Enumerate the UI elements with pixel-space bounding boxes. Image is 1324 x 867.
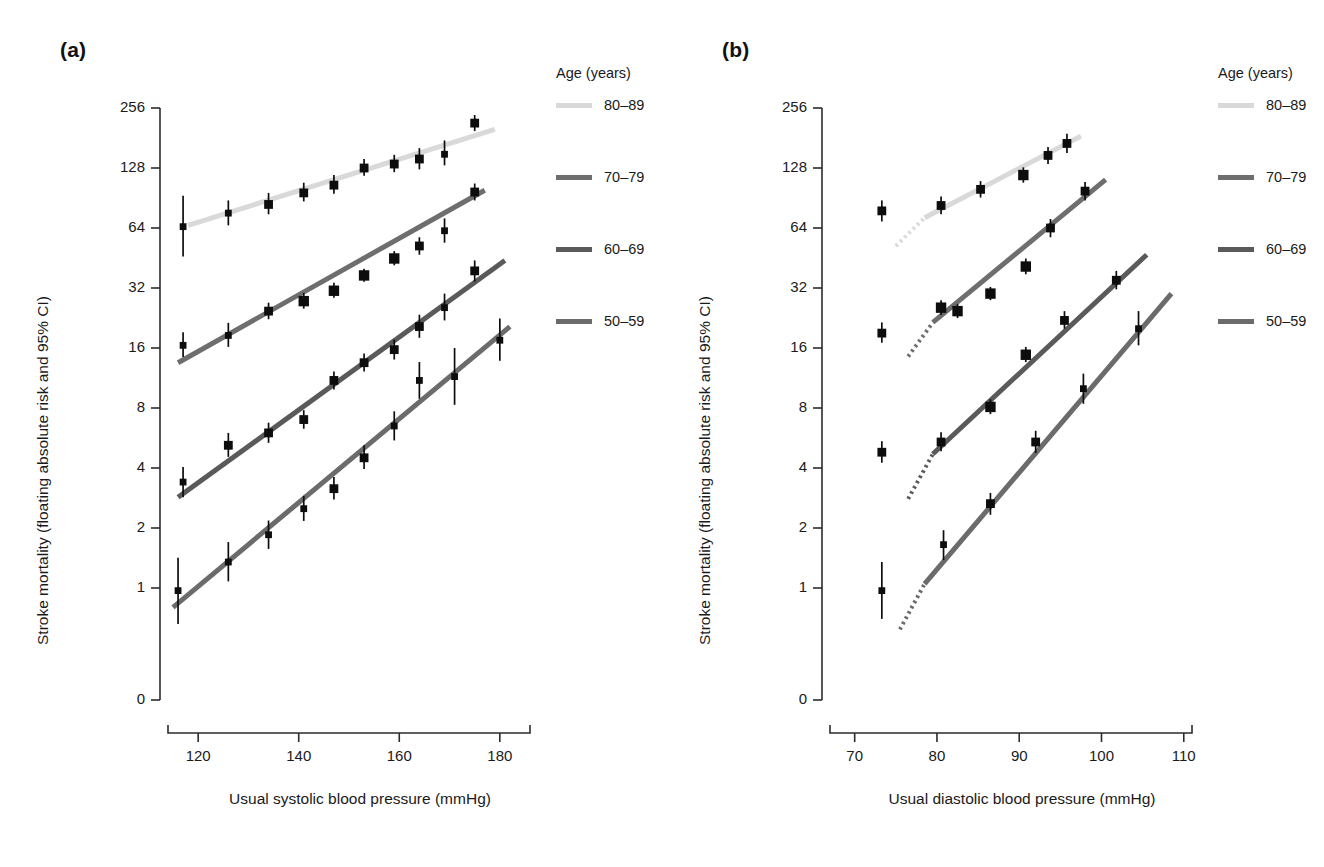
legend-swatch-icon xyxy=(1218,319,1254,324)
data-point-marker xyxy=(877,329,886,338)
legend-swatch-icon xyxy=(556,247,592,252)
data-point-marker xyxy=(299,189,308,198)
legend-label: 50–59 xyxy=(1266,311,1306,331)
data-point-marker xyxy=(470,188,479,197)
data-point-marker xyxy=(390,160,399,169)
data-point-marker xyxy=(976,185,985,194)
legend-swatch-icon xyxy=(1218,247,1254,252)
plot-canvas-b xyxy=(662,0,1324,867)
fit-line-dotted-extension xyxy=(908,322,933,356)
data-point-marker xyxy=(391,423,398,430)
data-point-marker xyxy=(1018,170,1028,180)
legend-label: 70–79 xyxy=(1266,167,1306,187)
figure-stroke-mortality-vs-blood-pressure: (a)Stroke mortality (floating absolute r… xyxy=(0,0,1324,867)
legend-swatch-icon xyxy=(556,175,592,180)
data-point-marker xyxy=(470,119,479,128)
data-point-marker xyxy=(225,332,232,339)
x-tick-label: 80 xyxy=(914,747,960,764)
data-point-marker xyxy=(360,358,369,367)
y-tick-label: 4 xyxy=(761,458,807,475)
panel-a: (a)Stroke mortality (floating absolute r… xyxy=(0,0,662,867)
legend-swatch-icon xyxy=(1218,175,1254,180)
y-tick-label: 1 xyxy=(761,578,807,595)
data-point-marker xyxy=(986,499,995,508)
x-tick-label: 90 xyxy=(996,747,1042,764)
data-point-marker xyxy=(415,155,424,164)
fit-line-dotted-extension xyxy=(908,454,933,499)
y-tick-label: 2 xyxy=(99,518,145,535)
data-point-marker xyxy=(1063,139,1072,148)
data-point-marker xyxy=(441,304,448,311)
data-point-marker xyxy=(264,200,273,209)
y-tick-label: 256 xyxy=(99,98,145,115)
data-point-marker xyxy=(389,253,399,263)
plot-canvas-a xyxy=(0,0,662,867)
data-point-marker xyxy=(451,373,458,380)
y-tick-label: 256 xyxy=(761,98,807,115)
data-point-marker xyxy=(330,181,339,190)
data-point-marker xyxy=(1031,438,1040,447)
data-point-marker xyxy=(416,377,423,384)
y-tick-label: 1 xyxy=(99,578,145,595)
data-point-marker xyxy=(300,505,307,512)
x-tick-label: 160 xyxy=(376,747,422,764)
data-point-marker xyxy=(329,286,339,296)
data-point-marker xyxy=(470,266,479,275)
fit-line-dotted-extension xyxy=(900,584,925,630)
y-tick-label: 128 xyxy=(761,158,807,175)
data-point-marker xyxy=(878,587,885,594)
data-point-marker xyxy=(441,151,448,158)
legend-label: 80–89 xyxy=(1266,95,1306,115)
y-tick-label: 16 xyxy=(99,338,145,355)
legend-swatch-icon xyxy=(1218,103,1254,108)
data-point-marker xyxy=(265,531,272,538)
legend-title: Age (years) xyxy=(1218,65,1293,81)
data-point-marker xyxy=(360,453,369,462)
legend-label: 50–59 xyxy=(604,311,644,331)
data-point-marker xyxy=(415,322,424,331)
legend-swatch-icon xyxy=(556,103,592,108)
y-tick-label: 64 xyxy=(761,218,807,235)
data-point-marker xyxy=(330,484,339,493)
data-point-marker xyxy=(330,376,339,385)
data-point-marker xyxy=(936,302,946,312)
series-50-59 xyxy=(173,318,510,623)
data-point-marker xyxy=(877,206,886,215)
data-point-marker xyxy=(1112,276,1121,285)
data-point-marker xyxy=(180,479,187,486)
y-tick-label: 4 xyxy=(99,458,145,475)
data-point-marker xyxy=(415,242,424,251)
series-80-89 xyxy=(180,115,495,257)
legend-swatch-icon xyxy=(556,319,592,324)
y-tick-label: 2 xyxy=(761,518,807,535)
x-tick-label: 140 xyxy=(276,747,322,764)
y-tick-label: 16 xyxy=(761,338,807,355)
data-point-marker xyxy=(985,288,995,298)
data-point-marker xyxy=(940,541,947,548)
data-point-marker xyxy=(180,342,187,349)
data-point-marker xyxy=(299,415,308,424)
data-point-marker xyxy=(877,448,886,457)
panel-b: (b)Stroke mortality (floating absolute r… xyxy=(662,0,1324,867)
data-point-marker xyxy=(359,270,369,280)
data-point-marker xyxy=(1046,224,1055,233)
series-70-79 xyxy=(178,184,485,363)
data-point-marker xyxy=(937,438,946,447)
data-point-marker xyxy=(1081,187,1090,196)
x-axis-line xyxy=(830,725,1192,733)
data-point-marker xyxy=(360,164,369,173)
data-point-marker xyxy=(180,223,187,230)
data-point-marker xyxy=(1021,261,1031,271)
data-point-marker xyxy=(225,210,232,217)
x-axis-line xyxy=(168,725,530,733)
x-tick-label: 110 xyxy=(1161,747,1207,764)
y-tick-label: 32 xyxy=(99,278,145,295)
legend-title: Age (years) xyxy=(556,65,631,81)
data-point-marker xyxy=(1080,385,1087,392)
x-tick-label: 120 xyxy=(175,747,221,764)
data-point-marker xyxy=(441,227,448,234)
data-point-marker xyxy=(264,429,273,438)
data-point-marker xyxy=(224,441,233,450)
data-point-marker xyxy=(1135,325,1142,332)
y-tick-label: 64 xyxy=(99,218,145,235)
